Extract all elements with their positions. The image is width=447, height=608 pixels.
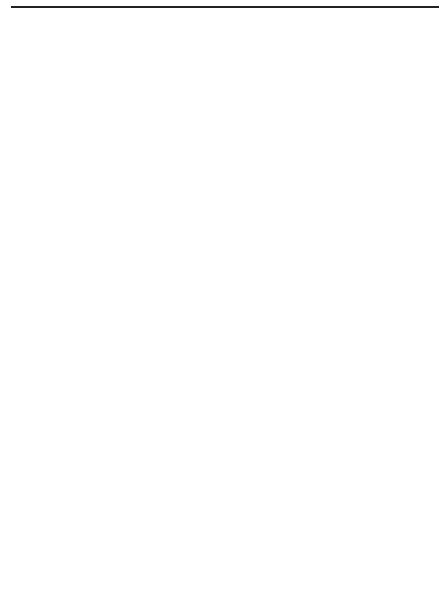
chart-panel-incomplete-democratization [0, 14, 447, 310]
top-horizontal-rule [11, 6, 439, 8]
complete-democratization-plot [0, 312, 447, 608]
figure-container [0, 0, 447, 608]
incomplete-democratization-plot [0, 14, 447, 310]
chart-panel-complete-democratization [0, 312, 447, 608]
